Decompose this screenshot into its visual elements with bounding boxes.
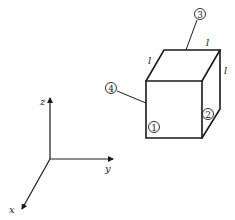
cube-diagram: z y x l l l 1 2 3 4 bbox=[0, 0, 235, 220]
face-label-4: 4 bbox=[106, 83, 147, 104]
x-axis-label: x bbox=[9, 204, 15, 215]
face-label-2: 2 bbox=[203, 109, 214, 120]
cube-top-face bbox=[146, 50, 220, 81]
z-axis-label: z bbox=[39, 96, 46, 107]
edge-length-label-right: l bbox=[224, 65, 227, 76]
svg-text:4: 4 bbox=[108, 84, 114, 94]
edge-length-label-left: l bbox=[148, 55, 151, 66]
x-axis bbox=[22, 159, 50, 209]
svg-text:1: 1 bbox=[151, 123, 157, 133]
face-label-3: 3 bbox=[186, 9, 206, 51]
edge-length-label-top: l bbox=[206, 37, 209, 48]
svg-text:2: 2 bbox=[205, 110, 211, 120]
face-label-1: 1 bbox=[149, 122, 160, 133]
y-axis-label: y bbox=[104, 163, 111, 174]
svg-text:3: 3 bbox=[197, 10, 203, 20]
coordinate-axes: z y x bbox=[9, 96, 113, 215]
cube-right-face bbox=[202, 50, 220, 138]
